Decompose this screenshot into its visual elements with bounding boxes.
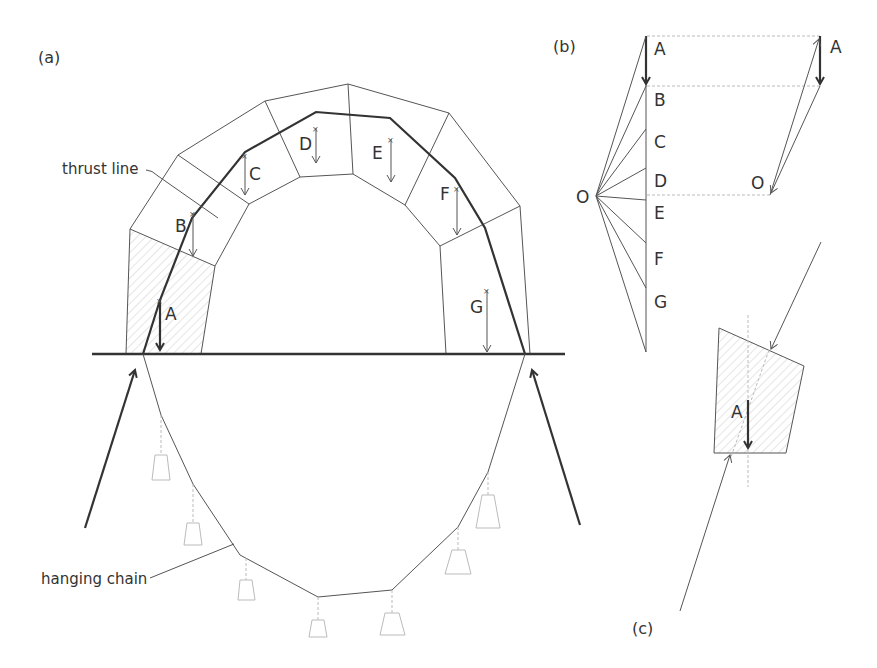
arch-intrados [201, 174, 446, 354]
svg-text:×: × [387, 136, 394, 145]
voussoir-a-free-body [714, 328, 804, 453]
svg-text:×: × [483, 287, 490, 296]
panel-a-label: (a) [38, 48, 60, 67]
reaction-arrow-left [85, 370, 135, 528]
voussoir-label-e: E [372, 143, 383, 163]
load-label-b: B [654, 90, 666, 110]
chain-weights [152, 415, 500, 637]
thrust-line-callout: thrust line [62, 160, 139, 178]
svg-text:×: × [312, 125, 319, 134]
load-label-c: C [654, 132, 666, 152]
voussoir-label-f: F [440, 184, 450, 204]
load-label-f: F [654, 249, 664, 269]
thrust-in-top [771, 242, 821, 349]
load-label-e: E [654, 203, 665, 223]
voussoir-a-hatch [126, 229, 215, 354]
hanging-chain-callout: hanging chain [41, 570, 147, 588]
force-polygon-rays [596, 36, 646, 352]
reaction-arrow-right [532, 370, 580, 525]
projection-lines [647, 36, 820, 195]
svg-text:×: × [156, 297, 163, 306]
hanging-chain-leader [150, 544, 234, 578]
panel-b-label: (b) [553, 37, 576, 56]
arch-thrust-line-diagram: (a) thrust line × × × × × × × A [0, 0, 877, 668]
svg-text:×: × [453, 185, 460, 194]
voussoir-label-g: G [470, 297, 483, 317]
small-polygon-pole-label: O [751, 173, 764, 193]
small-polygon-load-label: A [830, 37, 842, 57]
voussoir-label-d: D [299, 134, 312, 154]
thrust-line-leader [146, 170, 218, 218]
load-label-d: D [654, 171, 667, 191]
small-thrust-up [770, 39, 819, 195]
svg-text:×: × [189, 210, 196, 219]
pole-label: O [576, 187, 589, 207]
voussoir-label-a: A [165, 304, 177, 324]
svg-text:×: × [241, 152, 248, 161]
load-label-a: A [654, 39, 666, 59]
small-thrust-down [771, 86, 820, 193]
load-label-g: G [654, 292, 667, 312]
panel-c-label: (c) [632, 619, 653, 638]
voussoir-label-b: B [175, 216, 187, 236]
block-label: A [731, 402, 743, 422]
thrust-in-bottom [680, 455, 730, 611]
voussoir-label-c: C [249, 164, 261, 184]
voussoir-joints [130, 84, 520, 266]
